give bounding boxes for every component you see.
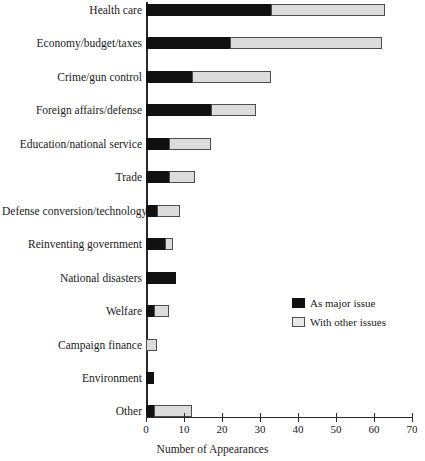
bar-segment-major-issue: [146, 138, 169, 150]
category-label: Campaign finance: [2, 339, 142, 351]
bar-row: [146, 238, 412, 250]
bar-segment-other-issues: [146, 339, 157, 351]
x-axis-tick: [146, 413, 147, 422]
category-label: Education/national service: [2, 138, 142, 150]
bar-segment-major-issue: [146, 372, 154, 384]
x-axis-tick-label: 0: [131, 423, 161, 435]
chart-legend: As major issue With other issues: [292, 295, 420, 333]
legend-label-other: With other issues: [310, 316, 386, 328]
x-axis-tick: [336, 413, 337, 422]
category-label: Foreign affairs/defense: [2, 104, 142, 116]
bar-row: [146, 205, 412, 217]
bar-segment-other-issues: [154, 405, 192, 417]
bar-row: [146, 171, 412, 183]
bar-row: [146, 405, 412, 417]
bar-segment-major-issue: [146, 238, 165, 250]
category-label: Economy/budget/taxes: [2, 37, 142, 49]
category-labels: Health careEconomy/budget/taxesCrime/gun…: [0, 0, 142, 418]
legend-item-with-other-issues: With other issues: [292, 314, 420, 329]
x-axis-tick: [412, 413, 413, 422]
bar-segment-major-issue: [146, 171, 169, 183]
x-axis-tick: [260, 413, 261, 422]
bar-segment-other-issues: [157, 205, 180, 217]
bar-row: [146, 104, 412, 116]
category-label: Crime/gun control: [2, 71, 142, 83]
x-axis-tick-label: 70: [397, 423, 425, 435]
bar-segment-other-issues: [192, 71, 272, 83]
bar-segment-major-issue: [146, 405, 154, 417]
bar-segment-major-issue: [146, 272, 176, 284]
legend-item-as-major-issue: As major issue: [292, 295, 420, 310]
category-label: Reinventing government: [2, 238, 142, 250]
bar-segment-other-issues: [271, 4, 385, 16]
bar-segment-other-issues: [211, 104, 257, 116]
bar-row: [146, 37, 412, 49]
legend-swatch-other-icon: [292, 317, 305, 327]
plot-area: [146, 0, 412, 418]
bar-row: [146, 272, 412, 284]
x-axis-tick-label: 50: [321, 423, 351, 435]
x-axis-tick: [298, 413, 299, 422]
category-label: Defense conversion/technology: [2, 205, 142, 217]
bar-chart: Health careEconomy/budget/taxesCrime/gun…: [0, 0, 425, 461]
bar-segment-other-issues: [165, 238, 173, 250]
legend-swatch-major-icon: [292, 298, 305, 308]
x-axis-tick-label: 30: [245, 423, 275, 435]
category-label: Environment: [2, 372, 142, 384]
x-axis-tick-label: 10: [169, 423, 199, 435]
bar-segment-major-issue: [146, 71, 192, 83]
category-label: Health care: [2, 4, 142, 16]
category-label: National disasters: [2, 272, 142, 284]
bar-segment-other-issues: [230, 37, 382, 49]
bar-segment-major-issue: [146, 205, 157, 217]
bar-row: [146, 4, 412, 16]
bar-segment-other-issues: [169, 138, 211, 150]
bar-segment-major-issue: [146, 4, 271, 16]
bar-segment-major-issue: [146, 104, 211, 116]
bar-row: [146, 71, 412, 83]
x-axis-tick: [374, 413, 375, 422]
bar-segment-other-issues: [154, 305, 169, 317]
category-label: Other: [2, 405, 142, 417]
bar-segment-major-issue: [146, 37, 230, 49]
x-axis-tick: [222, 413, 223, 422]
bar-segment-other-issues: [169, 171, 196, 183]
bar-row: [146, 339, 412, 351]
x-axis-title: Number of Appearances: [0, 443, 425, 456]
bar-segment-major-issue: [146, 305, 154, 317]
bar-row: [146, 372, 412, 384]
category-label: Welfare: [2, 305, 142, 317]
x-axis-tick-label: 60: [359, 423, 389, 435]
category-label: Trade: [2, 171, 142, 183]
x-axis-tick: [184, 413, 185, 422]
x-axis-tick-label: 40: [283, 423, 313, 435]
bar-row: [146, 138, 412, 150]
legend-label-major: As major issue: [310, 297, 375, 309]
x-axis-tick-label: 20: [207, 423, 237, 435]
